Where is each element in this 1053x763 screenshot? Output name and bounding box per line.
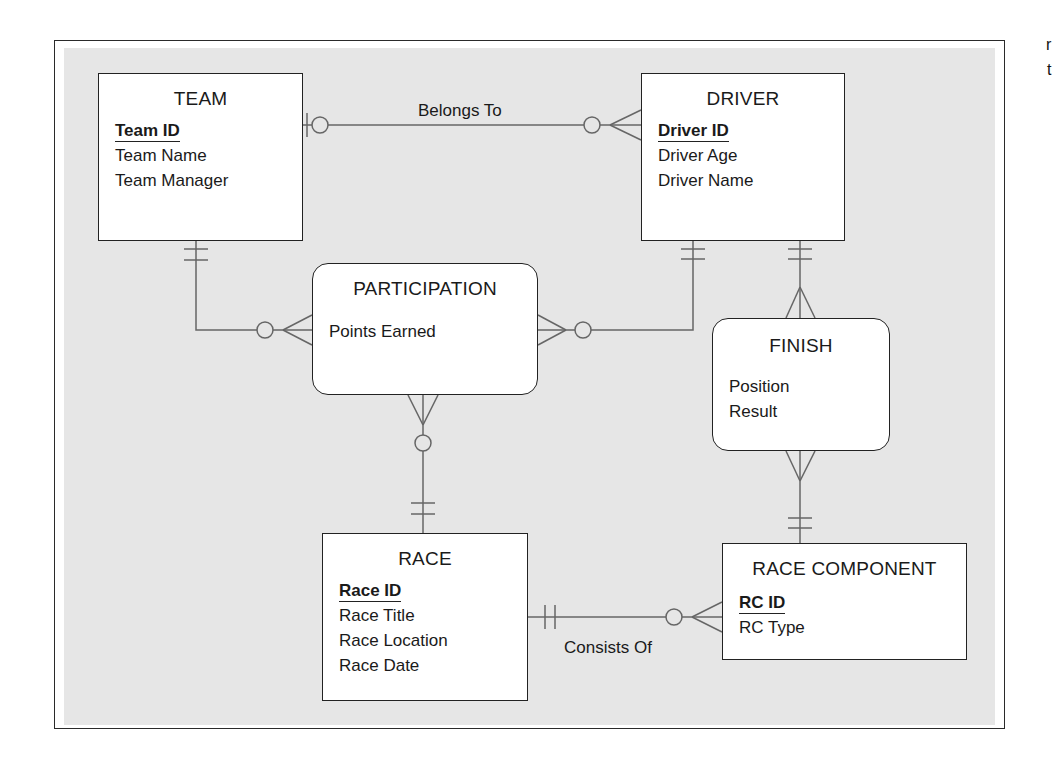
entity-title: DRIVER [642, 88, 844, 110]
connector-race-race-component [528, 602, 722, 632]
primary-key-attribute: RC ID [739, 590, 805, 615]
attribute: Position [729, 374, 789, 399]
entity-team[interactable]: TEAM Team ID Team Name Team Manager [98, 73, 303, 241]
attribute: RC Type [739, 615, 805, 640]
entity-race-component[interactable]: RACE COMPONENT RC ID RC Type [722, 543, 967, 660]
connector-participation-race [408, 395, 438, 533]
attribute: Race Date [339, 653, 448, 678]
relationship-label-consists-of: Consists Of [564, 638, 652, 658]
entity-title: PARTICIPATION [313, 278, 537, 300]
attribute: Result [729, 399, 789, 424]
attribute-list: Position Result [729, 374, 789, 424]
relationship-label-belongs-to: Belongs To [418, 101, 502, 121]
connector-finish-race-component [786, 451, 815, 543]
attribute-list: Points Earned [329, 319, 436, 344]
entity-finish[interactable]: FINISH Position Result [712, 318, 890, 451]
entity-driver[interactable]: DRIVER Driver ID Driver Age Driver Name [641, 73, 845, 241]
primary-key-attribute: Driver ID [658, 118, 753, 143]
entity-race[interactable]: RACE Race ID Race Title Race Location Ra… [322, 533, 528, 701]
connector-team-participation [184, 241, 312, 345]
attribute: Driver Age [658, 143, 753, 168]
entity-title: RACE [323, 548, 527, 570]
attribute: Driver Name [658, 168, 753, 193]
connector-driver-participation [538, 241, 705, 345]
entity-title: RACE COMPONENT [723, 558, 966, 580]
attribute-list: Race ID Race Title Race Location Race Da… [339, 578, 448, 678]
entity-participation[interactable]: PARTICIPATION Points Earned [312, 263, 538, 395]
attribute: Race Location [339, 628, 448, 653]
attribute: Team Manager [115, 168, 228, 193]
attribute-list: Driver ID Driver Age Driver Name [658, 118, 753, 193]
attribute: Points Earned [329, 319, 436, 344]
attribute-list: RC ID RC Type [739, 590, 805, 640]
attribute: Race Title [339, 603, 448, 628]
attribute-list: Team ID Team Name Team Manager [115, 118, 228, 193]
primary-key-attribute: Team ID [115, 118, 228, 143]
entity-title: FINISH [713, 335, 889, 357]
entity-title: TEAM [99, 88, 302, 110]
connector-driver-finish [786, 241, 815, 318]
attribute: Team Name [115, 143, 228, 168]
primary-key-attribute: Race ID [339, 578, 448, 603]
